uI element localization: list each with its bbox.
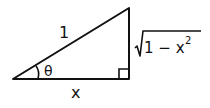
right-angle-marker (119, 69, 129, 79)
triangle-outline (13, 8, 129, 79)
adjacent-label: x (71, 83, 80, 102)
opposite-exponent-label: 2 (185, 35, 191, 46)
hypotenuse-label: 1 (59, 23, 69, 42)
angle-theta-label: θ (44, 63, 53, 79)
angle-arc (36, 66, 39, 79)
opposite-radicand-label: 1 − x (144, 39, 185, 57)
triangle-diagram: 1 θ x 1 − x 2 (0, 0, 210, 108)
